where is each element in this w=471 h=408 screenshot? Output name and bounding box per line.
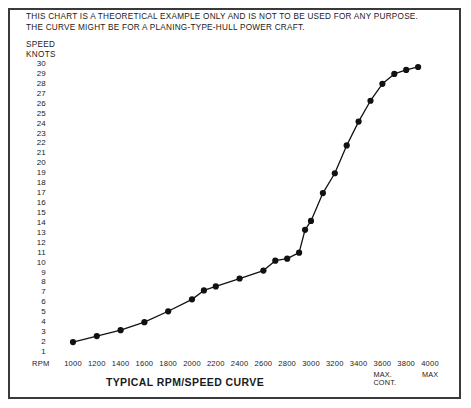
y-tick-label: 3 <box>30 328 46 336</box>
y-tick-label: 28 <box>30 80 46 88</box>
x-tick-label: 2200 <box>203 360 229 368</box>
x-axis-name: RPM <box>32 360 49 368</box>
y-tick-label: 24 <box>30 120 46 128</box>
x-tick-label: 1600 <box>131 360 157 368</box>
y-tick-label: 18 <box>30 179 46 187</box>
y-tick-label: 29 <box>30 70 46 78</box>
y-tick-label: 22 <box>30 139 46 147</box>
x-tick-label: 1200 <box>84 360 110 368</box>
x-tick-label: 2000 <box>179 360 205 368</box>
y-tick-label: 20 <box>30 159 46 167</box>
y-tick-label: 6 <box>30 298 46 306</box>
x-tick-label: 2400 <box>227 360 253 368</box>
x-tick-label: 3000 <box>298 360 324 368</box>
x-tick-label: 3400 <box>346 360 372 368</box>
y-tick-label: 17 <box>30 189 46 197</box>
chart-title: TYPICAL RPM/SPEED CURVE <box>0 376 370 388</box>
y-tick-label: 8 <box>30 278 46 286</box>
y-tick-label: 5 <box>30 308 46 316</box>
y-tick-label: 27 <box>30 90 46 98</box>
y-tick-label: 19 <box>30 169 46 177</box>
x-tick-label: 4000 <box>417 360 443 368</box>
x-tick-label: 3600 <box>369 360 395 368</box>
x-tick-label: 3800 <box>393 360 419 368</box>
max-continuous-marker: MAX. CONT. <box>373 371 396 388</box>
y-axis-title-line-2: KNOTS <box>26 50 56 60</box>
y-tick-label: 26 <box>30 100 46 108</box>
y-tick-label: 9 <box>30 269 46 277</box>
disclaimer-line-2: THE CURVE MIGHT BE FOR A PLANING-TYPE-HU… <box>26 23 418 34</box>
y-tick-label: 4 <box>30 318 46 326</box>
y-tick-label: 25 <box>30 110 46 118</box>
x-tick-label: 3200 <box>322 360 348 368</box>
y-tick-label: 11 <box>30 249 46 257</box>
x-tick-label: 2800 <box>274 360 300 368</box>
y-tick-label: 1 <box>30 348 46 356</box>
x-tick-label: 1400 <box>108 360 134 368</box>
disclaimer-line-1: THIS CHART IS A THEORETICAL EXAMPLE ONLY… <box>26 12 418 23</box>
y-tick-label: 13 <box>30 229 46 237</box>
y-tick-label: 30 <box>30 60 46 68</box>
x-tick-label: 1800 <box>155 360 181 368</box>
max-cont-line-2: CONT. <box>373 379 396 387</box>
y-tick-label: 10 <box>30 259 46 267</box>
y-tick-label: 15 <box>30 209 46 217</box>
x-tick-label: 2600 <box>250 360 276 368</box>
y-tick-label: 23 <box>30 130 46 138</box>
chart-frame <box>8 8 461 399</box>
y-tick-label: 2 <box>30 338 46 346</box>
y-tick-label: 16 <box>30 199 46 207</box>
y-tick-label: 14 <box>30 219 46 227</box>
disclaimer-note: THIS CHART IS A THEORETICAL EXAMPLE ONLY… <box>26 12 418 33</box>
max-marker: MAX <box>422 371 438 379</box>
y-axis-title: SPEED KNOTS <box>26 40 56 59</box>
x-tick-label: 1000 <box>60 360 86 368</box>
y-tick-label: 12 <box>30 239 46 247</box>
y-tick-label: 21 <box>30 149 46 157</box>
y-tick-label: 7 <box>30 288 46 296</box>
y-axis-title-line-1: SPEED <box>26 40 56 50</box>
